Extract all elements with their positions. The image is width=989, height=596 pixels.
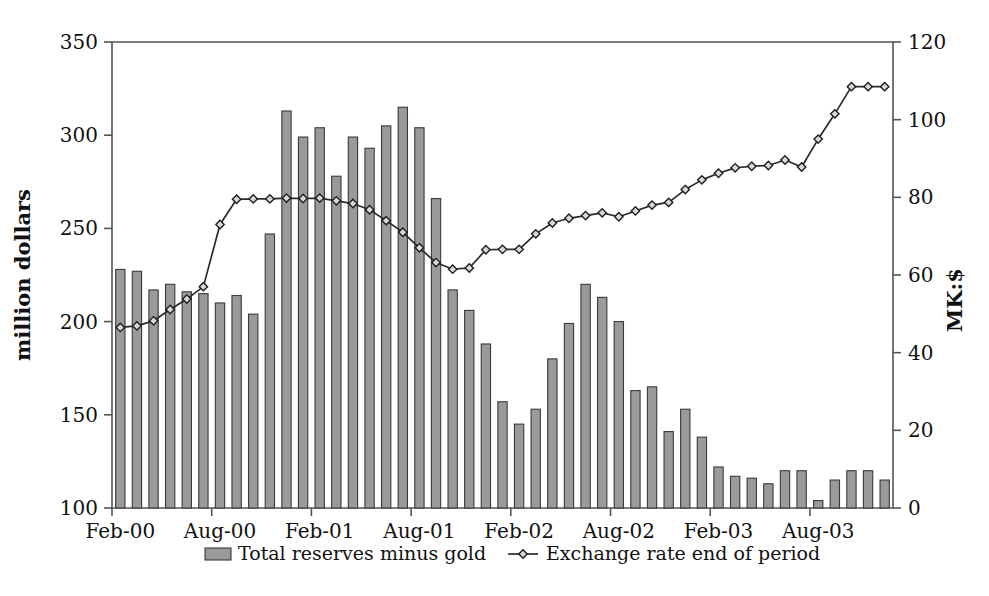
bar [747,478,756,508]
bar [498,402,507,508]
bar [249,314,258,508]
x-tick-label: Feb-03 [684,519,754,543]
chart-figure: 100150200250300350 020406080100120 Feb-0… [0,0,989,596]
line-series-exchange-rate-end-of-period [120,87,884,328]
bar [431,199,440,508]
bar [315,128,324,508]
y-left-tick-label: 350 [60,30,98,54]
x-tick-label: Aug-01 [382,519,455,543]
bar [465,310,474,508]
y-left-tick-label: 200 [60,310,98,334]
y-axis-left-ticks: 100150200250300350 [60,30,112,520]
legend-label-total-reserves: Total reserves minus gold [238,542,486,564]
x-tick-label: Feb-00 [85,519,155,543]
exchange-rate-line [120,87,884,328]
bar [199,294,208,508]
y-axis-right-title: MK:$ [942,268,967,332]
data-point-marker [498,245,506,253]
x-tick-label: Aug-00 [183,519,256,543]
x-axis-ticks: Feb-00Aug-00Feb-01Aug-01Feb-02Aug-02Feb-… [85,508,854,543]
legend-swatch-bar [205,548,231,560]
data-point-marker [797,163,805,171]
data-point-marker [698,176,706,184]
y-left-tick-label: 250 [60,216,98,240]
data-point-marker [731,164,739,172]
legend-label-exchange-rate: Exchange rate end of period [546,542,820,564]
data-point-marker [864,82,872,90]
data-point-marker [266,195,274,203]
bar [531,409,540,508]
y-left-tick-label: 300 [60,123,98,147]
data-point-marker [648,201,656,209]
y-axis-right-ticks: 020406080100120 [893,30,946,520]
data-point-marker [847,82,855,90]
y-right-tick-label: 20 [908,418,933,442]
data-point-marker [631,207,639,215]
legend-marker-exchange-rate [519,550,527,558]
bar [481,344,490,508]
bar [514,424,523,508]
bar [382,126,391,508]
bar [581,284,590,508]
bar [182,292,191,508]
bar [631,391,640,508]
chart-legend: Total reserves minus goldExchange rate e… [205,542,820,564]
y-right-tick-label: 0 [908,496,921,520]
bar [548,359,557,508]
bar [448,290,457,508]
bar [614,322,623,508]
bar [398,107,407,508]
bar [215,303,224,508]
data-point-marker [249,195,257,203]
x-tick-label: Aug-03 [781,519,854,543]
y-right-tick-label: 60 [908,263,933,287]
data-point-marker [548,219,556,227]
bar [830,480,839,508]
data-point-marker [781,156,789,164]
bar [730,476,739,508]
bar [780,471,789,508]
chart-canvas: 100150200250300350 020406080100120 Feb-0… [0,0,989,596]
bar-series-total-reserves-minus-gold [116,107,890,508]
data-point-marker [880,82,888,90]
bar [132,271,141,508]
bar [814,501,823,508]
bar [232,296,241,509]
bar [714,467,723,508]
bar [681,409,690,508]
y-left-tick-label: 150 [60,403,98,427]
y-left-tick-label: 100 [60,496,98,520]
bar [415,128,424,508]
bar [797,471,806,508]
bar [116,269,125,508]
data-point-marker [581,211,589,219]
data-point-marker [615,213,623,221]
bar [348,137,357,508]
bar [282,111,291,508]
x-tick-label: Feb-02 [484,519,554,543]
bar [332,176,341,508]
data-point-marker [714,169,722,177]
bar [166,284,175,508]
bar [298,137,307,508]
bar [880,480,889,508]
bar [365,148,374,508]
bar [664,432,673,508]
bar [598,297,607,508]
data-point-marker [598,209,606,217]
data-point-marker [448,265,456,273]
bar [265,234,274,508]
y-right-tick-label: 100 [908,108,946,132]
bar [764,484,773,508]
bar [697,437,706,508]
bar [564,323,573,508]
data-point-marker [764,161,772,169]
y-right-tick-label: 40 [908,341,933,365]
bar [647,387,656,508]
data-point-marker [748,162,756,170]
data-point-marker [565,214,573,222]
bar [847,471,856,508]
y-right-tick-label: 80 [908,185,933,209]
y-right-tick-label: 120 [908,30,946,54]
y-axis-left-title: million dollars [10,189,35,361]
